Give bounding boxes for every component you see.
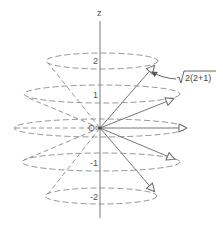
level-label-2: 2	[93, 56, 98, 66]
angular-momentum-diagram: z O 2 1 -1 -2 2(2+1)	[0, 0, 223, 229]
origin-label: O	[88, 123, 95, 133]
vector-m1	[100, 99, 173, 128]
ellipse-m-1	[22, 153, 180, 171]
ellipse-m-2	[45, 188, 157, 204]
level-label-neg2: -2	[90, 192, 98, 202]
origin-dot	[98, 126, 101, 129]
annotation-pointer	[152, 72, 176, 79]
z-axis-label: z	[97, 8, 102, 18]
magnitude-radicand: 2(2+1)	[185, 73, 211, 83]
ellipse-m1	[24, 85, 180, 103]
level-label-neg1: -1	[90, 158, 98, 168]
ellipse-m2	[46, 53, 158, 69]
vector-m-1	[100, 128, 174, 159]
level-label-1: 1	[93, 90, 98, 100]
vector-m2	[100, 66, 154, 128]
vector-m-2	[100, 128, 154, 191]
